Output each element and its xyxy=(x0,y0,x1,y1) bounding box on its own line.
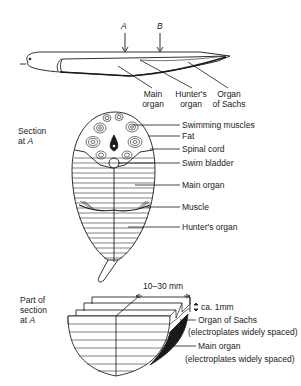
section-a-title: Section at A xyxy=(18,126,46,146)
thickness-dimension-label: ca. 1mm xyxy=(201,302,234,312)
label-spinal-cord: Spinal cord xyxy=(182,144,225,154)
label-fat: Fat xyxy=(182,131,194,141)
label-main-organ-block: Main organ xyxy=(198,341,241,351)
top-leader-lines xyxy=(118,60,228,88)
label-organ-of-sachs: Organ of Sachs xyxy=(198,315,257,325)
label-organ-of-sachs-note: (electroplates widely spaced) xyxy=(188,327,298,337)
label-main-organ-note: (electroplates widely spaced) xyxy=(185,354,295,364)
marker-b-label: B xyxy=(157,21,163,31)
label-hunters-organ-top: Hunter's organ xyxy=(173,89,209,109)
label-main-organ-top: Main organ xyxy=(140,89,166,109)
label-main-organ: Main organ xyxy=(182,180,225,190)
width-dimension-label: 10–30 mm xyxy=(143,281,183,291)
marker-arrows xyxy=(122,33,163,52)
label-organ-of-sachs-top: Organ of Sachs xyxy=(211,89,247,109)
label-hunters-organ: Hunter's organ xyxy=(182,222,238,232)
label-swim-bladder: Swim bladder xyxy=(182,158,234,168)
dimension-arrows xyxy=(136,294,198,311)
block-section xyxy=(68,297,190,376)
label-muscle: Muscle xyxy=(182,202,209,212)
label-swimming-muscles: Swimming muscles xyxy=(182,120,255,130)
part-section-title: Part of section at A xyxy=(20,295,47,325)
eel-side-view xyxy=(20,52,230,76)
marker-a-label: A xyxy=(121,21,127,31)
cross-section xyxy=(72,112,155,282)
